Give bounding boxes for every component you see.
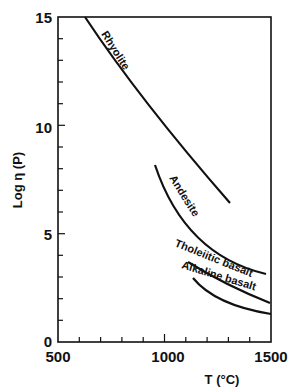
y-tick-15: 15 xyxy=(35,9,52,26)
x-tick-1000: 1000 xyxy=(151,348,184,365)
andesite-label: Andesite xyxy=(167,173,202,219)
x-ticks xyxy=(79,334,249,342)
x-tick-1500: 1500 xyxy=(254,348,287,365)
y-axis-title: Log η (P) xyxy=(10,152,25,208)
plot-frame xyxy=(58,17,271,342)
y-ticks xyxy=(58,39,65,321)
x-axis-title: T (°C) xyxy=(205,372,240,387)
viscosity-chart: 15 10 5 0 500 1000 1500 T (°C) Log η (P)… xyxy=(0,0,299,392)
rhyolite-label: Rhyolite xyxy=(99,29,132,72)
y-tick-10: 10 xyxy=(35,119,52,136)
y-tick-5: 5 xyxy=(44,226,52,243)
x-tick-500: 500 xyxy=(45,348,70,365)
